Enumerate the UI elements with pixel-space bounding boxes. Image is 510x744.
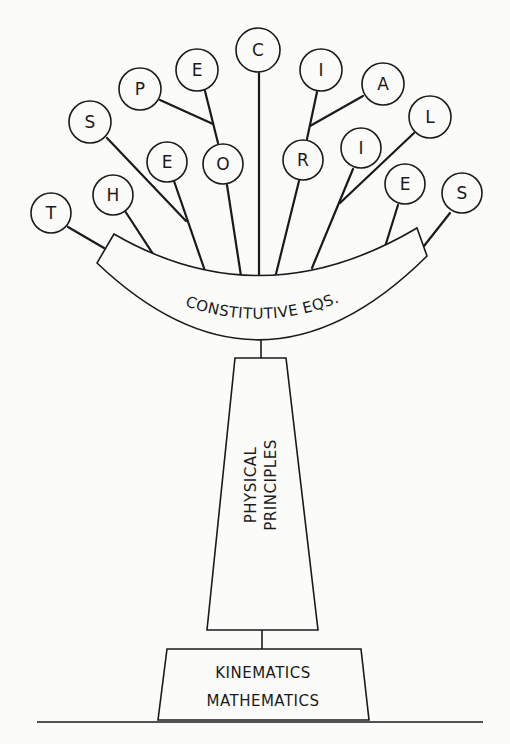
base-label-line2: MATHEMATICS [206, 692, 319, 710]
leaf-node-p: P [119, 68, 161, 110]
svg-text:C: C [252, 40, 264, 60]
svg-text:E: E [400, 174, 411, 194]
svg-text:R: R [297, 150, 309, 170]
svg-text:E: E [192, 60, 203, 80]
leaf-node-a: A [362, 63, 404, 105]
leaf-node-l: L [409, 96, 451, 138]
leaf-node-s-left: S [69, 101, 111, 143]
leaf-node-e-lower: E [147, 142, 187, 182]
leaf-node-c: C [236, 28, 280, 72]
leaf-node-s-right: S [442, 173, 482, 213]
trunk-label-line1: PHYSICAL [242, 447, 260, 524]
svg-text:H: H [107, 185, 120, 205]
svg-text:S: S [457, 183, 468, 203]
base-label-line1: KINEMATICS [215, 664, 311, 682]
svg-text:I: I [358, 138, 363, 158]
theory-tree-diagram: KINEMATICS MATHEMATICS PHYSICAL PRINCIPL… [0, 0, 510, 744]
leaf-node-e-upper: E [176, 49, 218, 91]
leaf-node-i-lower: I [341, 128, 381, 168]
svg-text:T: T [45, 203, 57, 223]
svg-text:I: I [318, 60, 323, 80]
svg-text:A: A [377, 74, 389, 94]
svg-text:L: L [425, 107, 435, 127]
leaf-node-r: R [283, 140, 323, 180]
leaf-node-h: H [93, 175, 133, 215]
svg-text:S: S [85, 112, 96, 132]
leaf-node-e-right: E [385, 164, 425, 204]
trunk-label-line2: PRINCIPLES [262, 439, 280, 530]
svg-text:O: O [216, 154, 229, 174]
leaf-node-t: T [31, 193, 71, 233]
svg-text:E: E [162, 152, 173, 172]
svg-text:P: P [135, 79, 145, 99]
leaf-node-o: O [203, 144, 243, 184]
leaf-node-i-upper: I [300, 49, 342, 91]
